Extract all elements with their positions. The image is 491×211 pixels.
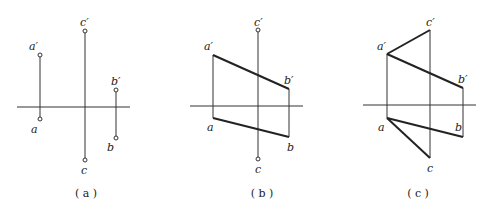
label-a: a — [207, 121, 214, 134]
label-a-prime: a′ — [29, 40, 39, 53]
label-a-prime: a′ — [204, 40, 214, 53]
label-c-prime: c′ — [426, 16, 435, 29]
line-a-prime-b-prime — [387, 54, 463, 88]
label-b: b — [455, 121, 462, 134]
label-b-prime: b′ — [284, 74, 294, 87]
line-a-prime-b-prime — [213, 55, 289, 89]
label-c-prime: c′ — [254, 16, 263, 29]
label-c-prime: c′ — [80, 16, 89, 29]
point-c — [83, 158, 87, 162]
label-b: b — [107, 141, 114, 154]
point-a — [38, 117, 42, 121]
label-b-prime: b′ — [111, 75, 121, 88]
panel-c: a′ a c′ c b′ b ( c ) — [363, 16, 476, 200]
caption-a: ( a ) — [75, 187, 97, 200]
label-c: c — [81, 164, 87, 177]
line-a-b — [213, 118, 289, 137]
label-c: c — [427, 162, 433, 175]
caption-b: ( b ) — [251, 187, 274, 200]
label-a-prime: a′ — [377, 40, 387, 53]
panel-b: a′ a c′ c b′ b ( b ) — [190, 16, 303, 200]
panel-a: a′ a c′ c b′ b ( a ) — [17, 16, 130, 200]
point-b-prime — [114, 88, 118, 92]
label-a: a — [31, 123, 38, 136]
point-c-prime — [83, 29, 87, 33]
point-a-prime — [38, 53, 42, 57]
projection-diagram: a′ a c′ c b′ b ( a ) a′ a c′ c b′ b ( b … — [0, 0, 491, 211]
label-c: c — [255, 163, 261, 176]
line-a-prime-c-prime — [387, 30, 430, 54]
label-b-prime: b′ — [458, 73, 468, 86]
caption-c: ( c ) — [407, 187, 429, 200]
point-b — [114, 136, 118, 140]
label-b: b — [287, 141, 294, 154]
point-c — [256, 157, 260, 161]
label-a: a — [378, 121, 385, 134]
